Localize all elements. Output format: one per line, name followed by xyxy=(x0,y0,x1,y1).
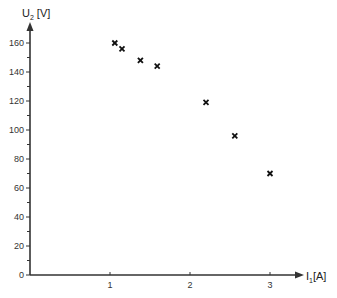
y-tick-label: 40 xyxy=(14,212,24,222)
x-tick-label: 2 xyxy=(187,280,192,290)
y-tick-label: 0 xyxy=(19,270,24,280)
cross-marker-icon xyxy=(112,41,117,46)
x-axis: 123 xyxy=(30,272,304,291)
y-tick-label: 20 xyxy=(14,241,24,251)
x-axis-title: I1[A] xyxy=(306,270,326,284)
y-tick-label: 140 xyxy=(9,67,24,77)
y-axis-title: U2[V] xyxy=(22,7,50,21)
data-points xyxy=(112,41,272,177)
cross-marker-icon xyxy=(232,133,237,138)
cross-marker-icon xyxy=(268,171,273,176)
x-tick-label: 3 xyxy=(267,280,272,290)
y-axis-arrow-icon xyxy=(27,22,34,31)
y-tick-label: 120 xyxy=(9,96,24,106)
cross-marker-icon xyxy=(120,46,125,51)
y-axis: 020406080100120140160 xyxy=(9,22,34,280)
cross-marker-icon xyxy=(138,58,143,63)
y-tick-label: 160 xyxy=(9,38,24,48)
y-tick-label: 60 xyxy=(14,183,24,193)
x-axis-arrow-icon xyxy=(295,272,304,279)
x-tick-label: 1 xyxy=(107,280,112,290)
scatter-chart: 020406080100120140160 123 U2[V] I1[A] xyxy=(0,0,337,298)
y-tick-label: 100 xyxy=(9,125,24,135)
cross-marker-icon xyxy=(155,64,160,69)
cross-marker-icon xyxy=(204,100,209,105)
y-tick-label: 80 xyxy=(14,154,24,164)
